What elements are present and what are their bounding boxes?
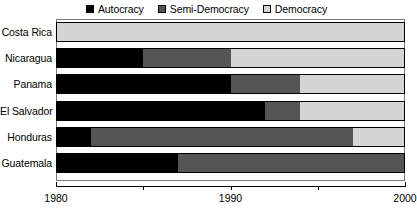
bar-segment-semi-democracy[interactable]	[231, 74, 301, 94]
bar-segment-democracy[interactable]	[300, 74, 405, 94]
x-axis-tick	[405, 182, 406, 187]
bar-segment-autocracy[interactable]	[56, 74, 231, 94]
bar-segment-democracy[interactable]	[353, 127, 405, 147]
stacked-bars-layer	[56, 19, 405, 181]
legend-swatch-filled-gray-square	[158, 5, 166, 13]
legend-entry[interactable]: Semi-Democracy	[158, 4, 249, 15]
x-axis-tick	[231, 186, 232, 190]
x-axis-tick-label: 2000	[393, 192, 416, 204]
bar-segment-democracy[interactable]	[56, 22, 405, 42]
x-axis-tick	[56, 182, 57, 187]
category-label: El Salvador	[0, 101, 52, 121]
category-label: Costa Rica	[0, 22, 52, 42]
chart-legend: AutocracySemi-DemocracyDemocracy	[0, 2, 413, 16]
x-axis-tick-label: 1980	[44, 192, 67, 204]
category-label: Guatemala	[0, 153, 52, 173]
bar-segment-semi-democracy[interactable]	[178, 153, 405, 173]
category-label: Honduras	[0, 127, 52, 147]
bar-row	[56, 22, 405, 42]
bar-row	[56, 153, 405, 173]
bar-segment-democracy[interactable]	[231, 48, 406, 68]
bar-segment-semi-democracy[interactable]	[265, 101, 300, 121]
bar-segment-semi-democracy[interactable]	[91, 127, 353, 147]
bar-segment-semi-democracy[interactable]	[143, 48, 230, 68]
bar-row	[56, 101, 405, 121]
category-label: Nicaragua	[0, 48, 52, 68]
legend-swatch-filled-black-square	[86, 5, 94, 13]
x-axis-tick	[143, 186, 144, 190]
legend-entry[interactable]: Democracy	[263, 4, 327, 15]
bar-segment-autocracy[interactable]	[56, 153, 178, 173]
legend-swatch-open-light-square	[263, 5, 271, 13]
bar-segment-autocracy[interactable]	[56, 127, 91, 147]
x-axis-tick	[318, 186, 319, 190]
bar-row	[56, 74, 405, 94]
bar-row	[56, 127, 405, 147]
x-axis-tick-label: 1990	[219, 192, 242, 204]
bar-segment-democracy[interactable]	[300, 101, 405, 121]
category-label: Panama	[0, 74, 52, 94]
category-axis-labels: Costa RicaNicaraguaPanamaEl SalvadorHond…	[0, 19, 52, 181]
bar-row	[56, 48, 405, 68]
bar-segment-autocracy[interactable]	[56, 48, 143, 68]
legend-entry[interactable]: Autocracy	[86, 4, 144, 15]
legend-label: Autocracy	[98, 4, 144, 15]
bar-segment-autocracy[interactable]	[56, 101, 265, 121]
legend-label: Democracy	[275, 4, 327, 15]
legend-label: Semi-Democracy	[170, 4, 249, 15]
